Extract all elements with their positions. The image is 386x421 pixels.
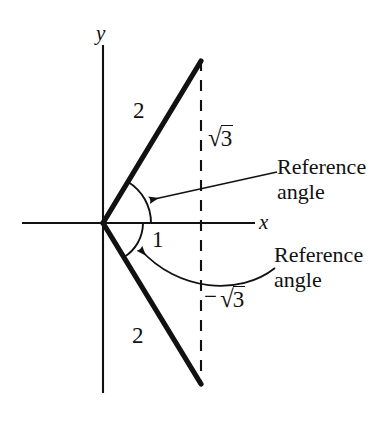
upper-vertical-length-label: √ 3 xyxy=(208,124,233,151)
upper-reference-angle-line1: Reference xyxy=(277,155,366,180)
x-axis-label: x xyxy=(259,211,268,234)
lower-reference-angle-line2: angle xyxy=(274,268,363,293)
lower-reference-angle-arc xyxy=(124,223,143,257)
base-leg-length-label: 1 xyxy=(152,228,164,253)
upper-reference-angle-annotation: Reference angle xyxy=(277,155,366,204)
radical-sign-icon: √ xyxy=(208,125,222,150)
radicand-value: 3 xyxy=(221,125,234,150)
lower-reference-angle-annotation: Reference angle xyxy=(274,243,363,292)
minus-sign-icon: − xyxy=(204,285,217,310)
lower-vertical-length-label: − √ 3 xyxy=(204,285,245,310)
lower-leg-length-label: 2 xyxy=(132,324,144,349)
radicand-value: 3 xyxy=(233,286,246,311)
radical-expression-neg-sqrt3: − √ 3 xyxy=(204,285,245,310)
upper-ray xyxy=(103,61,201,223)
upper-reference-angle-arc xyxy=(128,182,151,223)
radical-expression-sqrt3: √ 3 xyxy=(208,124,233,149)
upper-reference-angle-line2: angle xyxy=(277,180,366,205)
lower-reference-angle-pointer xyxy=(140,249,275,286)
y-axis-label: y xyxy=(96,22,105,45)
upper-reference-angle-pointer xyxy=(150,172,277,200)
figure-canvas xyxy=(0,0,386,421)
radical-sign-icon: √ xyxy=(220,286,234,311)
reference-angle-figure: y x 2 2 1 √ 3 − √ 3 Reference angle Refe… xyxy=(0,0,386,421)
upper-leg-length-label: 2 xyxy=(133,99,145,124)
lower-reference-angle-line1: Reference xyxy=(274,243,363,268)
